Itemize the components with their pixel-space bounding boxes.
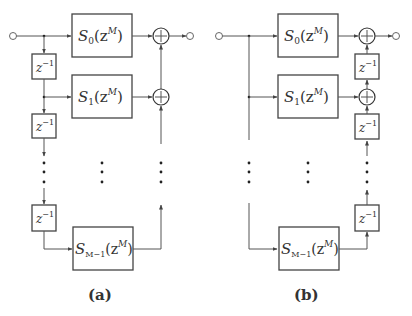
polyphase-diagram: z−1 z−1 z−1 S0(zM) S1(zM) [0,0,412,316]
svg-text:S0(zM): S0(zM) [78,26,123,46]
delay-block-b-1: z−1 [355,54,379,79]
input-terminal-b [216,33,223,40]
filter-block-a-1: S1(zM) [72,75,132,118]
adder-a-1 [153,89,169,105]
ellipsis-b-right [366,162,369,184]
delay-block-b-3: z−1 [355,205,379,231]
delay-block-a-1: z−1 [32,54,56,79]
filter-block-b-m-1: SM−1(zM) [279,227,339,270]
filter-block-b-0: S0(zM) [278,14,338,57]
input-terminal-a [10,33,17,40]
wire [249,203,277,249]
wire [44,231,72,249]
adder-b-0 [359,28,375,44]
output-terminal-b [393,33,400,40]
output-terminal-a [187,33,194,40]
filter-block-a-0: S0(zM) [72,14,132,57]
svg-text:S1(zM): S1(zM) [78,87,123,107]
svg-text:S1(zM): S1(zM) [284,87,329,107]
wire [339,232,367,249]
ellipsis-b-left [248,162,251,184]
filter-block-b-1: S1(zM) [278,75,338,118]
panel-a: z−1 z−1 z−1 S0(zM) S1(zM) [10,14,194,304]
svg-text:S0(zM): S0(zM) [284,26,329,46]
ellipsis-a-right [160,162,163,184]
ellipsis-a-left [43,162,46,184]
delay-block-a-2: z−1 [32,114,56,138]
delay-block-b-2: z−1 [355,114,379,139]
wire [133,205,161,249]
panel-b: S0(zM) S1(zM) SM−1(zM) z−1 z−1 [216,14,400,304]
ellipsis-b-mid [307,162,310,184]
ellipsis-a-mid [101,162,104,184]
panel-caption-a: (a) [88,286,112,304]
adder-a-0 [153,28,169,44]
adder-b-1 [359,89,375,105]
panel-caption-b: (b) [294,286,319,304]
filter-block-a-m-1: SM−1(zM) [73,227,133,270]
delay-block-a-3: z−1 [32,205,56,231]
